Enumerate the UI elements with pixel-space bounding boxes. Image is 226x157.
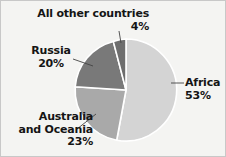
slice-label-all-other-countries-percent: 4% (13, 21, 149, 34)
slice-label-all-other-countries: All other countries 4% (13, 8, 149, 33)
slice-label-africa-percent: 53% (185, 90, 220, 103)
slice-label-australia-oceania: Australia and Oceania 23% (3, 111, 93, 149)
slice-label-russia-name: Russia (31, 44, 70, 57)
slice-label-all-other-countries-name: All other countries (37, 7, 149, 20)
pie-chart-figure: All other countries 4% Russia 20% Africa… (0, 0, 226, 157)
slice-label-africa: Africa 53% (185, 77, 220, 102)
slice-label-australia-oceania-line1: Australia (39, 110, 93, 123)
slice-label-russia-percent: 20% (19, 58, 83, 71)
slice-label-australia-oceania-percent: 23% (3, 136, 93, 149)
slice-label-russia: Russia 20% (19, 45, 83, 70)
slice-label-africa-name: Africa (185, 76, 220, 89)
